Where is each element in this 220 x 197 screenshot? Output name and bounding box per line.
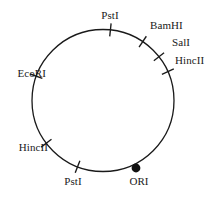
site-label-pstI-top: PstI	[101, 9, 119, 21]
plasmid-backbone-circle	[32, 30, 174, 172]
plasmid-map-figure: PstIBamHISalIHincIIEcoRIHincIIPstIORI	[0, 0, 220, 197]
restriction-site-tick	[162, 69, 174, 74]
site-label-salI: SalI	[172, 36, 190, 48]
restriction-site-tick	[154, 53, 164, 61]
ori-marker-icon	[132, 164, 141, 173]
site-label-pstI-bottom: PstI	[64, 175, 82, 187]
site-label-bamHI: BamHI	[150, 19, 183, 31]
site-label-hincII-left: HincII	[19, 141, 48, 153]
restriction-site-tick	[139, 36, 146, 47]
restriction-site-tick	[110, 23, 111, 36]
site-label-hincII-right: HincII	[175, 54, 204, 66]
site-label-ecoRI: EcoRI	[17, 67, 46, 79]
plasmid-diagram-svg	[0, 0, 220, 197]
ori-label: ORI	[129, 175, 148, 187]
